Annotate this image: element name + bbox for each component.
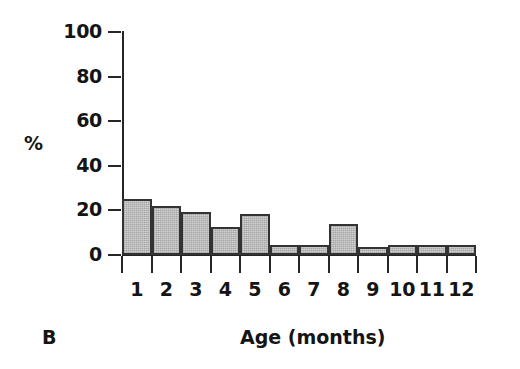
y-axis-tick [108,120,121,122]
bar [270,245,300,255]
bar [417,245,447,255]
bar [358,247,388,255]
x-axis-tick [180,256,182,273]
x-axis-title: Age (months) [240,326,385,348]
y-axis-tick-label-text: 20 [42,200,102,219]
y-axis-tick-label-text: 80 [42,67,102,86]
bar [181,212,211,255]
y-axis-tick [108,165,121,167]
x-axis-tick [357,256,359,273]
x-axis-tick-label: 12 [447,278,477,300]
y-axis-title: % [24,134,43,153]
x-axis-tick-label: 2 [152,278,182,300]
y-axis-tick-label: 0 [40,245,102,264]
bar [122,199,152,255]
y-axis-tick-label-text: 0 [42,245,102,264]
y-axis-tick-label-text: 60 [42,111,102,130]
y-axis-tick [108,31,121,33]
y-axis-tick-label: 100 [40,22,102,41]
x-axis-tick [269,256,271,273]
x-axis-tick [387,256,389,273]
plot-area [122,32,476,255]
x-axis-tick-label: 3 [181,278,211,300]
x-axis-tick-label: 9 [358,278,388,300]
bar [211,227,241,255]
y-axis-tick-label: 20 [40,200,102,219]
x-axis-tick-label: 4 [211,278,241,300]
x-axis-tick [475,256,477,273]
y-axis-tick-label: 40 [40,156,102,175]
x-axis-tick [239,256,241,273]
x-axis-tick [446,256,448,273]
bar [447,245,477,255]
x-axis-tick [210,256,212,273]
x-axis-tick-label: 5 [240,278,270,300]
panel-label: B [42,326,56,348]
x-axis-tick-label: 11 [417,278,447,300]
x-axis-tick-label: 10 [388,278,418,300]
x-axis-tick [328,256,330,273]
x-axis-tick-label: 8 [329,278,359,300]
x-axis-tick [151,256,153,273]
bar [388,245,418,255]
bar [329,224,359,255]
bar [299,245,329,255]
y-axis-tick-label-text: 100 [42,22,102,41]
y-axis-tick [108,209,121,211]
y-axis-tick-label: 80 [40,67,102,86]
x-axis-tick-label: 6 [270,278,300,300]
bar [152,206,182,255]
y-axis-tick-label-text: 40 [42,156,102,175]
y-axis-tick [108,254,121,256]
x-axis-tick-label: 7 [299,278,329,300]
bar-chart-figure: % 020406080100 123456789101112 Age (mont… [0,0,520,369]
bar [240,214,270,255]
x-axis-tick [416,256,418,273]
x-axis-tick-label: 1 [122,278,152,300]
y-axis-tick [108,76,121,78]
x-axis-tick [121,256,123,273]
x-axis-tick [298,256,300,273]
y-axis-tick-label: 60 [40,111,102,130]
